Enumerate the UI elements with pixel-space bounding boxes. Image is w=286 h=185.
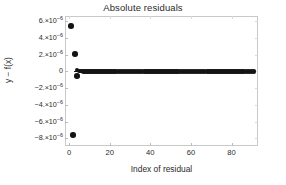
y-axis-tick-mark-right bbox=[255, 21, 258, 22]
y-axis-tick-mark-right bbox=[255, 88, 258, 89]
y-axis-tick-mark-right bbox=[255, 122, 258, 123]
y-axis-label: y − f(x) bbox=[3, 40, 13, 100]
x-axis-tick-mark-top bbox=[150, 16, 151, 19]
y-axis-tick-label: −8.×10−6 bbox=[34, 134, 63, 141]
x-axis-tick-label: 80 bbox=[212, 149, 252, 157]
x-axis-tick-mark bbox=[150, 143, 151, 146]
y-axis-tick-mark bbox=[65, 71, 68, 72]
y-axis-tick-label: 0 bbox=[59, 67, 63, 74]
y-axis-tick-label: 4.×10−6 bbox=[39, 34, 63, 41]
y-axis-tick-mark bbox=[65, 122, 68, 123]
y-axis-tick-mark-right bbox=[255, 38, 258, 39]
y-axis-tick-mark-right bbox=[255, 138, 258, 139]
y-axis-tick-label: −4.×10−6 bbox=[34, 101, 63, 108]
x-axis-tick-mark-top bbox=[191, 16, 192, 19]
x-axis-tick-mark bbox=[232, 143, 233, 146]
plot-frame bbox=[65, 16, 258, 146]
x-axis-tick-mark bbox=[110, 143, 111, 146]
data-point bbox=[74, 73, 80, 79]
y-axis-tick-label: 6.×10−6 bbox=[39, 17, 63, 24]
y-axis-tick-mark bbox=[65, 88, 68, 89]
x-axis-label: Index of residual bbox=[65, 164, 258, 174]
chart-title: Absolute residuals bbox=[0, 2, 286, 13]
y-axis-tick-label: 2.×10−6 bbox=[39, 51, 63, 58]
data-point bbox=[68, 23, 74, 29]
y-axis-tick-mark-right bbox=[255, 105, 258, 106]
x-axis-tick-label: 40 bbox=[130, 149, 170, 157]
y-axis-tick-mark-right bbox=[255, 55, 258, 56]
data-point bbox=[72, 51, 78, 57]
y-axis-tick-mark bbox=[65, 55, 68, 56]
y-axis-tick-mark bbox=[65, 21, 68, 22]
x-axis-tick-label: 0 bbox=[49, 149, 89, 157]
x-axis-tick-mark bbox=[69, 143, 70, 146]
chart-figure: Absolute residuals 6.×10−64.×10−62.×10−6… bbox=[0, 0, 286, 185]
x-axis-tick-mark-top bbox=[69, 16, 70, 19]
y-axis-tick-mark bbox=[65, 138, 68, 139]
x-axis-tick-mark bbox=[191, 143, 192, 146]
data-point bbox=[252, 69, 257, 74]
x-axis-tick-mark-top bbox=[110, 16, 111, 19]
x-axis-tick-label: 20 bbox=[90, 149, 130, 157]
y-axis-tick-mark bbox=[65, 105, 68, 106]
x-axis-tick-mark-top bbox=[232, 16, 233, 19]
y-axis-tick-mark bbox=[65, 38, 68, 39]
data-point bbox=[70, 132, 76, 138]
x-axis-tick-label: 60 bbox=[171, 149, 211, 157]
y-axis-tick-label: −2.×10−6 bbox=[34, 84, 63, 91]
y-axis-tick-label: −6.×10−6 bbox=[34, 118, 63, 125]
